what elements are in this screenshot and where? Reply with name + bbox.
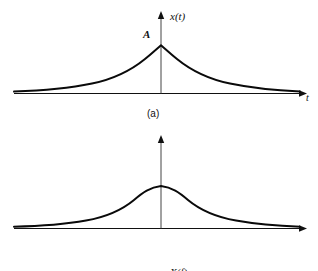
panel-b-y-axis-label: X(f) xyxy=(170,267,187,271)
panel-a-caption: (a) xyxy=(147,108,159,119)
figure-container: x(t) A t (a) X(f) 2A α f (b) xyxy=(0,0,318,271)
panel-b-curve xyxy=(14,186,300,227)
panel-b-frequency-domain: X(f) 2A α f (b) xyxy=(0,130,318,271)
panel-a-y-axis-arrowhead xyxy=(158,11,164,19)
panel-a-peak-label: A xyxy=(143,29,150,40)
panel-b-plot xyxy=(0,130,318,271)
panel-a-y-axis-label: x(t) xyxy=(170,11,185,22)
panel-a-curve xyxy=(14,45,300,91)
panel-a-x-axis-label: t xyxy=(306,93,309,103)
panel-b-y-axis-arrowhead xyxy=(158,135,164,143)
panel-a-time-domain: x(t) A t (a) xyxy=(0,0,318,135)
